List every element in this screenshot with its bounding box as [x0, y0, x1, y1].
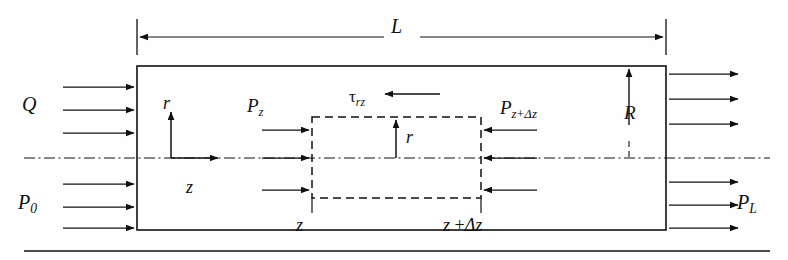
pressure-z-plus-dz-arrows: [484, 130, 537, 190]
label-length: L: [391, 16, 402, 36]
label-axial-axis: z: [186, 178, 193, 196]
label-inlet-pressure: P0: [18, 192, 37, 216]
label-pressure-z: Pz: [247, 96, 264, 119]
diagram-canvas: [0, 0, 788, 260]
label-flow-rate: Q: [22, 94, 36, 114]
label-radial-position: r: [406, 128, 413, 146]
label-station-z-plus-dz: z +Δz: [443, 216, 482, 234]
label-station-z: z: [296, 216, 303, 234]
label-outlet-pressure: PL: [737, 192, 757, 216]
label-radius: R: [624, 103, 636, 122]
label-pressure-z-plus-dz: Pz+Δz: [500, 98, 537, 121]
pipe-flow-diagram: L Q P0 PL R r z r Pz Pz+Δz τrz z z +Δz: [0, 0, 788, 260]
label-radial-axis: r: [163, 94, 170, 112]
outlet-flow-arrows: [669, 74, 738, 228]
control-volume-extension-lines: [312, 198, 481, 213]
pipe-wall-rectangle: [137, 66, 666, 230]
pressure-z-arrows: [262, 130, 309, 190]
coordinate-axes: [171, 112, 218, 158]
label-shear-stress: τrz: [349, 88, 365, 108]
